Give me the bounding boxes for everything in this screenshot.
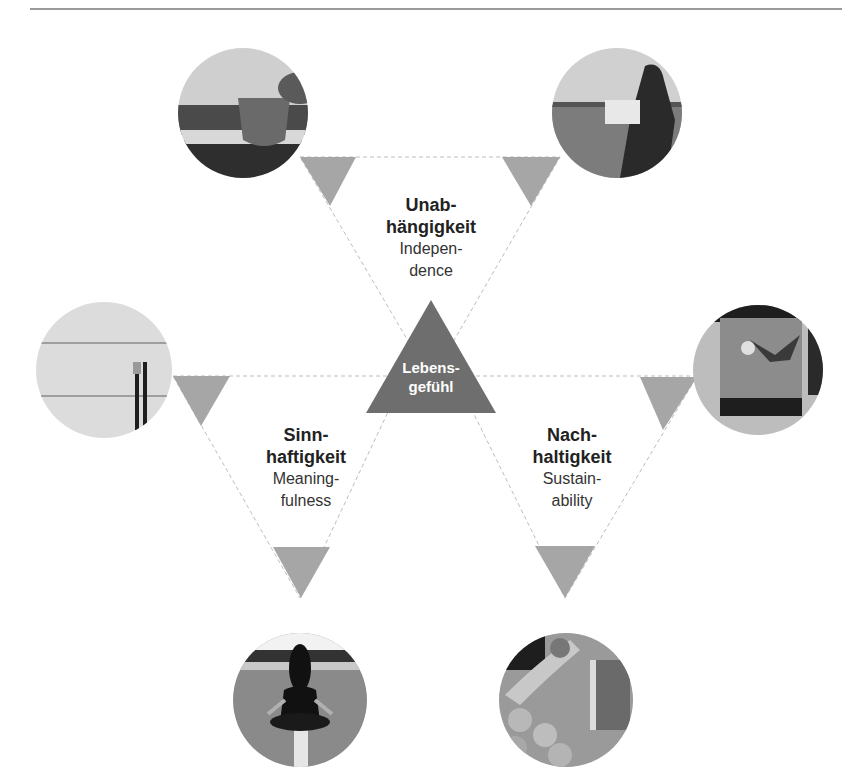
segment-meaningfulness: Sinn- haftigkeit Meaning- fulness bbox=[236, 424, 376, 512]
center-label-line2: gefühl bbox=[409, 378, 454, 395]
pointer-right bbox=[640, 377, 697, 430]
segment-title-line1: Sinn- bbox=[236, 424, 376, 446]
segment-subtitle-line2: fulness bbox=[236, 490, 376, 512]
pointer-bottom-left bbox=[273, 547, 330, 598]
segment-title-line2: hängigkeit bbox=[361, 216, 501, 238]
center-label-line1: Lebens- bbox=[402, 359, 460, 376]
segment-subtitle-line1: Sustain- bbox=[502, 468, 642, 490]
pointer-left bbox=[173, 376, 230, 426]
segment-title-line1: Unab- bbox=[361, 194, 501, 216]
center-label: Lebens- gefühl bbox=[381, 358, 481, 396]
pointer-bottom-right bbox=[535, 546, 595, 598]
segment-subtitle-line1: Indepen- bbox=[361, 238, 501, 260]
segment-subtitle-line2: ability bbox=[502, 490, 642, 512]
segment-title-line2: haftigkeit bbox=[236, 446, 376, 468]
photo-coffee-cup bbox=[170, 40, 322, 190]
pointer-top-right bbox=[502, 157, 560, 206]
photo-meditation bbox=[230, 630, 370, 770]
photo-hands-fruit bbox=[495, 630, 635, 770]
photo-person-by-sea bbox=[550, 45, 690, 185]
segment-title-line2: haltigkeit bbox=[502, 446, 642, 468]
center-triangle bbox=[366, 300, 496, 413]
segment-subtitle-line1: Meaning- bbox=[236, 468, 376, 490]
segment-independence: Unab- hängigkeit Indepen- dence bbox=[361, 194, 501, 282]
photo-gift-box bbox=[690, 300, 830, 440]
segment-sustainability: Nach- haltigkeit Sustain- ability bbox=[502, 424, 642, 512]
segment-subtitle-line2: dence bbox=[361, 260, 501, 282]
pointer-top-left bbox=[300, 157, 356, 206]
photo-cutlery bbox=[30, 300, 180, 450]
segment-title-line1: Nach- bbox=[502, 424, 642, 446]
